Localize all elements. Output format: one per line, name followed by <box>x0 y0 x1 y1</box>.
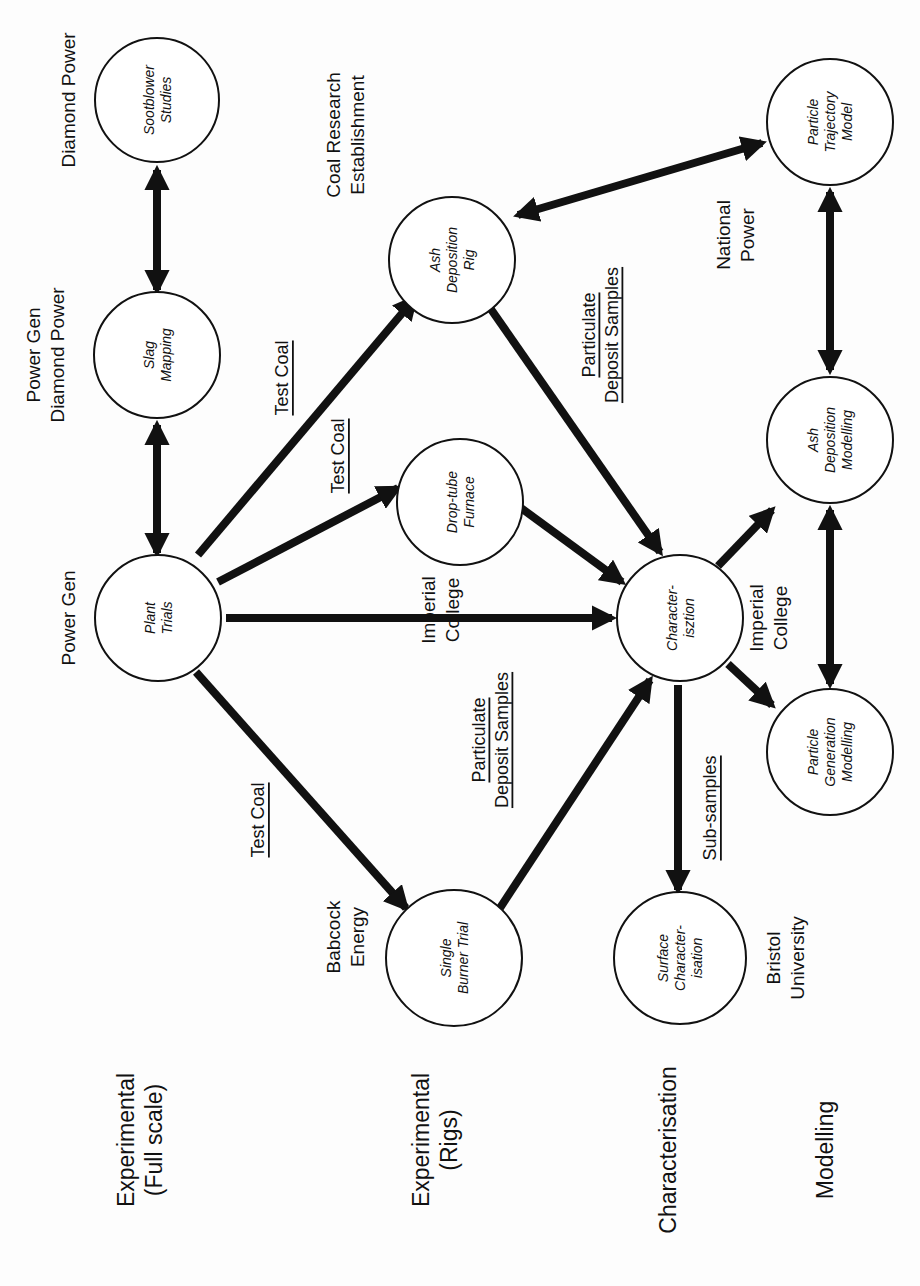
particle-generation-modelling-label-line: Modelling <box>839 722 855 782</box>
flow-particulate-deposit-1-line: Particulate <box>579 292 599 377</box>
org-coal-research-line: Coal Research <box>323 72 344 198</box>
cat-rigs-line: Experimental <box>408 1073 434 1207</box>
cat-modelling: Modelling <box>812 1101 838 1199</box>
org-power-gen-diamond-power: Power GenDiamond Power <box>23 287 68 423</box>
cat-rigs: Experimental(Rigs) <box>408 1073 462 1207</box>
flow-test-coal-3-line: Test Coal <box>248 782 268 857</box>
org-bristol-university: BristolUniversity <box>763 916 808 1000</box>
ash-deposition-rig-node: AshDepositionRig <box>389 197 515 323</box>
cat-full-scale-line: Experimental <box>113 1073 139 1207</box>
plant-trials-node: PlantTrials <box>95 555 221 681</box>
org-power-gen-diamond-power-line: Diamond Power <box>47 287 68 423</box>
flow-particulate-deposit-2: ParticulateDeposit Samples <box>469 672 512 808</box>
edge-plant-single-burner-arrow <box>196 672 406 908</box>
surface-characterisation-label-line: Character- <box>672 925 688 991</box>
cat-full-scale-line: (Full scale) <box>141 1084 167 1196</box>
particle-generation-modelling-label-line: Particle <box>805 728 821 775</box>
org-coal-research: Coal ResearchEstablishment <box>323 72 368 198</box>
org-power-gen-diamond-power-line: Power Gen <box>23 307 44 402</box>
characterisation-node-node: Character-isztion <box>617 555 743 681</box>
cat-rigs-line: (Rigs) <box>436 1109 462 1170</box>
ash-deposition-rig-label-line: Ash <box>427 248 443 273</box>
cat-full-scale: Experimental(Full scale) <box>113 1073 167 1207</box>
org-diamond-power-line: Diamond Power <box>58 32 79 168</box>
org-national-power-line: Power <box>737 207 758 262</box>
sootblower-studies-label-line: Sootblower <box>141 64 157 135</box>
flow-particulate-deposit-2-line: Particulate <box>469 697 489 782</box>
org-national-power-line: National <box>713 200 734 270</box>
particle-generation-modelling-node: ParticleGenerationModelling <box>767 689 893 815</box>
drop-tube-furnace-label-line: Furnace <box>461 476 477 528</box>
org-imperial-college-1-line: College <box>442 578 463 642</box>
org-coal-research-line: Establishment <box>347 75 368 195</box>
ash-deposition-rig-label-line: Deposition <box>444 227 460 293</box>
ash-deposition-modelling-label-line: Deposition <box>822 407 838 473</box>
particle-trajectory-model-label-line: Trajectory <box>822 90 838 152</box>
slag-mapping-label-line: Mapping <box>158 328 174 382</box>
drop-tube-furnace-node: Drop-tubeFurnace <box>397 439 523 565</box>
particle-trajectory-model-label-line: Model <box>839 102 855 141</box>
org-bristol-university-line: University <box>787 916 808 1000</box>
org-imperial-college-1-line: Imperial <box>418 576 439 644</box>
single-burner-trial-node: SingleBurner Trial <box>386 890 522 1026</box>
org-imperial-college-1: ImperialCollege <box>418 576 463 644</box>
surface-characterisation-node: SurfaceCharacter-isation <box>614 892 746 1024</box>
categories-layer: Experimental(Full scale)Experimental(Rig… <box>113 1066 838 1233</box>
ash-deposition-rig-label-line: Rig <box>461 249 477 270</box>
single-burner-trial-label-line: Single <box>438 938 454 977</box>
flow-sub-samples: Sub-samples <box>700 755 720 860</box>
ash-deposition-modelling-label-line: Ash <box>805 428 821 453</box>
org-bristol-university-line: Bristol <box>763 932 784 985</box>
particle-generation-modelling-label-line: Generation <box>822 717 838 786</box>
org-babcock-energy: BabcockEnergy <box>323 900 368 973</box>
flow-test-coal-3: Test Coal <box>248 782 268 857</box>
org-imperial-college-2: ImperialCollege <box>746 584 791 652</box>
drop-tube-furnace-label-line: Drop-tube <box>444 471 460 533</box>
slag-mapping-label-line: Slag <box>141 341 157 369</box>
edge-charact-partgen-arrow <box>728 664 772 705</box>
slag-mapping-node: SlagMapping <box>94 292 220 418</box>
plant-trials-label: PlantTrials <box>142 601 175 635</box>
plant-trials-label-line: Plant <box>142 601 158 634</box>
surface-characterisation-label-line: isation <box>689 938 705 979</box>
sootblower-studies-label-line: Studies <box>158 77 174 124</box>
particle-trajectory-model-node: ParticleTrajectoryModel <box>767 59 893 185</box>
flow-test-coal-1: Test Coal <box>272 340 292 415</box>
org-imperial-college-2-line: Imperial <box>746 584 767 652</box>
edge-plant-ashrig-arrow <box>198 298 415 555</box>
flow-particulate-deposit-1-line: Deposit Samples <box>602 267 622 403</box>
edge-single-burner-charact-arrow <box>500 680 650 908</box>
org-babcock-energy-line: Energy <box>347 906 368 967</box>
ash-deposition-modelling-label-line: Modelling <box>839 410 855 470</box>
particle-trajectory-model-label-line: Particle <box>805 98 821 145</box>
characterisation-node-label-line: isztion <box>681 598 697 638</box>
flow-test-coal-2: Test Coal <box>328 418 348 493</box>
edge-charact-ashmod-arrow <box>718 510 772 566</box>
flow-test-coal-1-line: Test Coal <box>272 340 292 415</box>
cat-modelling-line: Modelling <box>812 1101 838 1199</box>
single-burner-trial-label-line: Burner Trial <box>455 921 471 994</box>
flow-particulate-deposit-2-line: Deposit Samples <box>492 672 512 808</box>
cat-characterisation-line: Characterisation <box>655 1066 681 1233</box>
plant-trials-label-line: Trials <box>159 601 175 634</box>
research-network-diagram: SootblowerStudiesSlagMappingPlantTrialsA… <box>0 0 920 1286</box>
org-babcock-energy-line: Babcock <box>323 900 344 973</box>
ash-deposition-modelling-node: AshDepositionModelling <box>767 377 893 503</box>
sootblower-studies-node: SootblowerStudies <box>95 38 219 162</box>
characterisation-node-label-line: Character- <box>664 585 680 651</box>
org-power-gen: Power Gen <box>58 570 79 665</box>
org-imperial-college-2-line: College <box>770 586 791 650</box>
flow-test-coal-2-line: Test Coal <box>328 418 348 493</box>
surface-characterisation-label-line: Surface <box>655 934 671 982</box>
org-diamond-power: Diamond Power <box>58 32 79 168</box>
cat-characterisation: Characterisation <box>655 1066 681 1233</box>
diagram-canvas: SootblowerStudiesSlagMappingPlantTrialsA… <box>0 0 920 1286</box>
drop-tube-furnace-label: Drop-tubeFurnace <box>444 471 477 533</box>
org-national-power: NationalPower <box>713 200 758 270</box>
flow-particulate-deposit-1: ParticulateDeposit Samples <box>579 267 622 403</box>
flow-sub-samples-line: Sub-samples <box>700 755 720 860</box>
org-power-gen-line: Power Gen <box>58 570 79 665</box>
